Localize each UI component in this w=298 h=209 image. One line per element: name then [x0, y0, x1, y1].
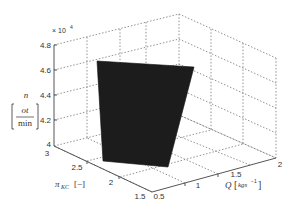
svg-text:−1: −1: [251, 178, 257, 184]
y-tick: 2: [109, 178, 114, 187]
y-axis-label: π KC [−]: [55, 179, 85, 190]
svg-text:[−]: [−]: [74, 179, 85, 189]
z-tick: 4.4: [40, 91, 52, 100]
x-axis-label: Q [ kgs −1 ]: [225, 178, 261, 190]
y-tick: 2.5: [71, 163, 83, 172]
z-tick: 4.8: [40, 41, 52, 50]
svg-text:kgs: kgs: [238, 181, 248, 189]
svg-text:n: n: [24, 90, 29, 100]
x-tick: 0.5: [153, 192, 165, 201]
svg-text:ot: ot: [21, 105, 29, 115]
svg-text:× 10: × 10: [52, 27, 66, 34]
surface: [97, 61, 194, 167]
x-tick: 1: [196, 181, 201, 190]
svg-text:]: ]: [258, 179, 261, 190]
svg-text:min: min: [18, 118, 33, 128]
x-tick: 2: [278, 160, 283, 169]
z-tick-labels: 4.8 4.6 4.4 4.2 4: [40, 41, 52, 149]
svg-text:Q: Q: [225, 180, 232, 190]
x-tick-labels: 0.5 1 1.5 2: [153, 160, 282, 201]
svg-text:4: 4: [70, 24, 73, 30]
z-axis-label: n ot min: [12, 90, 38, 129]
z-tick: 4: [47, 140, 52, 149]
svg-text:π: π: [55, 179, 60, 189]
z-tick: 4.2: [40, 116, 52, 125]
z-multiplier: × 10 4: [52, 24, 73, 34]
z-tick: 4.6: [40, 66, 52, 75]
surface-plot: 4.8 4.6 4.4 4.2 4 3 2.5 2 1.5 0.5 1 1.5 …: [0, 0, 298, 209]
svg-text:[: [: [234, 179, 237, 190]
y-tick: 3: [45, 149, 50, 158]
svg-text:KC: KC: [60, 184, 70, 190]
y-tick: 1.5: [134, 192, 146, 201]
x-tick: 1.5: [230, 170, 242, 179]
